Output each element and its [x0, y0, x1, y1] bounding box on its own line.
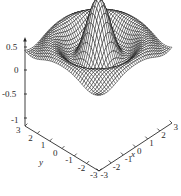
x-tick-label: -2 [113, 162, 121, 172]
z-tick-label: 0 [14, 65, 19, 75]
x-tick-label: 0 [137, 146, 142, 156]
z-tick-label: -0.5 [2, 89, 17, 99]
x-tick-label: -3 [101, 170, 109, 180]
x-tick-label: 3 [174, 122, 179, 132]
x-tick-label: 2 [161, 130, 166, 140]
plot-canvas: 0.5 0 -0.5 -1 3210-1-2-3 -3-2-10123 y x [0, 0, 181, 196]
x-axis-label: x [130, 149, 135, 159]
surface-plot-figure: 0.5 0 -0.5 -1 3210-1-2-3 -3-2-10123 y x [0, 0, 181, 196]
x-tick-label: 1 [149, 138, 154, 148]
y-axis-label: y [38, 157, 43, 167]
y-tick-label: -1 [65, 155, 73, 165]
y-tick-label: 1 [41, 140, 46, 150]
z-tick-label: 0.5 [6, 42, 18, 52]
y-tick-label: 2 [28, 133, 33, 143]
mesh-cell [97, 95, 101, 96]
z-tick-label: -1 [11, 115, 19, 125]
y-tick-label: 0 [53, 148, 58, 158]
y-tick-label: 3 [16, 125, 21, 135]
y-tick-label: -3 [90, 170, 98, 180]
y-tick-label: -2 [78, 163, 86, 173]
